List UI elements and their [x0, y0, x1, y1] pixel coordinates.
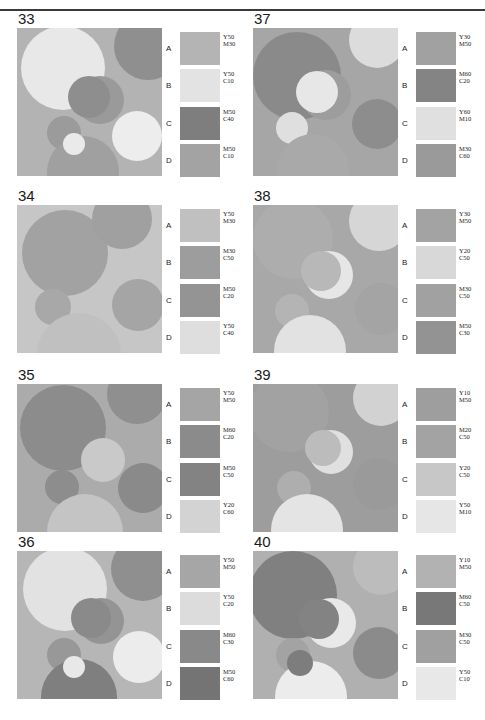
ink-value: Y30: [459, 33, 485, 40]
swatch-row-label: D: [402, 512, 408, 521]
swatch-row-label: D: [402, 679, 408, 688]
ink-value: M10: [459, 508, 485, 515]
ink-annotation: M50C30: [459, 322, 485, 337]
ink-value: M10: [459, 115, 485, 122]
plate-panel: 34ABCDY50M30M30C50M50C20Y50C40: [17, 188, 267, 353]
plate-number: 34: [18, 188, 267, 205]
color-swatch-column: [416, 384, 456, 532]
ink-value: C50: [459, 600, 485, 607]
ink-value: M50: [459, 322, 485, 329]
plate-number: 35: [18, 367, 267, 384]
color-swatch: [180, 630, 220, 663]
swatch-row-labels: ABCD: [165, 551, 178, 699]
plate-number: 38: [254, 188, 485, 205]
color-swatch: [416, 425, 456, 458]
ink-value: M50: [459, 396, 485, 403]
swatch-row-label: D: [166, 512, 172, 521]
swatch-row-labels: ABCD: [401, 384, 414, 532]
swatch-row-label: D: [166, 156, 172, 165]
ink-annotation: M20C50: [459, 426, 485, 441]
ink-value: M30: [459, 145, 485, 152]
swatch-row-label: C: [402, 296, 408, 305]
color-swatch-column: [180, 28, 220, 176]
plate-number: 37: [254, 11, 485, 28]
swatch-row-labels: ABCD: [165, 384, 178, 532]
color-swatch: [180, 425, 220, 458]
color-swatch: [416, 667, 456, 700]
swatch-row-labels: ABCD: [165, 28, 178, 176]
color-swatch: [180, 209, 220, 242]
plate-panel: 39ABCDY10M50M20C50Y20C50Y50M10: [253, 367, 485, 532]
color-swatch-column: [180, 384, 220, 532]
plate-number: 33: [18, 11, 267, 28]
swatch-row-label: A: [402, 44, 407, 53]
ink-annotation: Y60M10: [459, 108, 485, 123]
ink-value: C50: [459, 254, 485, 261]
ink-annotation: M60C50: [459, 593, 485, 608]
ink-value: Y20: [459, 464, 485, 471]
ink-value: Y30: [459, 210, 485, 217]
ink-annotation-column: Y30M50M60C20Y60M10M30C60: [459, 28, 485, 176]
swatch-row-label: B: [402, 604, 407, 613]
swatch-row-label: A: [402, 400, 407, 409]
plate-number: 40: [254, 534, 485, 551]
color-swatch: [180, 592, 220, 625]
ink-annotation: Y20C50: [459, 247, 485, 262]
color-swatch-column: [416, 551, 456, 699]
swatch-row-label: D: [402, 156, 408, 165]
plate-panel: 33ABCDY50M30Y50C10M50C40M50C10: [17, 11, 267, 176]
plate-artwork: [17, 551, 162, 699]
ink-annotation: M30C50: [459, 631, 485, 646]
ink-value: Y60: [459, 108, 485, 115]
ink-value: M50: [459, 563, 485, 570]
plate-number: 39: [254, 367, 485, 384]
swatch-row-label: A: [402, 221, 407, 230]
color-swatch: [180, 284, 220, 317]
ink-value: Y10: [459, 389, 485, 396]
color-swatch-column: [180, 205, 220, 353]
swatch-row-label: C: [402, 119, 408, 128]
ink-value: C50: [459, 471, 485, 478]
plate-artwork: [253, 551, 398, 699]
running-header: [0, 0, 485, 9]
swatch-row-label: A: [166, 567, 171, 576]
ink-annotation: Y30M50: [459, 210, 485, 225]
swatch-row-label: D: [402, 333, 408, 342]
plate-body: ABCDY50M50Y50C20M60C30M50C60: [17, 551, 267, 699]
swatch-row-label: C: [402, 475, 408, 484]
ink-value: C20: [459, 77, 485, 84]
swatch-row-label: B: [166, 258, 171, 267]
ink-annotation: Y50C10: [459, 668, 485, 683]
swatch-row-label: C: [402, 642, 408, 651]
ink-value: C50: [459, 292, 485, 299]
ink-value: C50: [459, 638, 485, 645]
swatch-row-label: C: [166, 642, 172, 651]
color-swatch: [416, 69, 456, 102]
color-swatch: [180, 388, 220, 421]
swatch-row-labels: ABCD: [401, 28, 414, 176]
plate-number: 36: [18, 534, 267, 551]
ink-annotation-column: Y10M50M20C50Y20C50Y50M10: [459, 384, 485, 532]
color-swatch: [416, 284, 456, 317]
swatch-row-label: B: [166, 437, 171, 446]
color-swatch: [180, 69, 220, 102]
ink-annotation: Y20C50: [459, 464, 485, 479]
swatch-row-label: C: [166, 475, 172, 484]
color-swatch: [416, 209, 456, 242]
swatch-row-label: B: [402, 81, 407, 90]
ink-value: C10: [459, 675, 485, 682]
ink-value: C60: [459, 152, 485, 159]
ink-value: Y20: [459, 247, 485, 254]
swatch-row-label: C: [166, 296, 172, 305]
plate-artwork: [17, 28, 162, 176]
ink-value: M60: [459, 70, 485, 77]
plate-body: ABCDY50M30M30C50M50C20Y50C40: [17, 205, 267, 353]
swatch-row-labels: ABCD: [401, 205, 414, 353]
plate-panel: 35ABCDY50M50M60C20M50C50Y20C60: [17, 367, 267, 532]
swatch-row-label: B: [166, 604, 171, 613]
color-swatch: [180, 667, 220, 700]
ink-annotation-column: Y10M50M60C50M30C50Y50C10: [459, 551, 485, 699]
swatch-row-label: A: [166, 44, 171, 53]
ink-annotation: M60C20: [459, 70, 485, 85]
color-swatch: [416, 592, 456, 625]
